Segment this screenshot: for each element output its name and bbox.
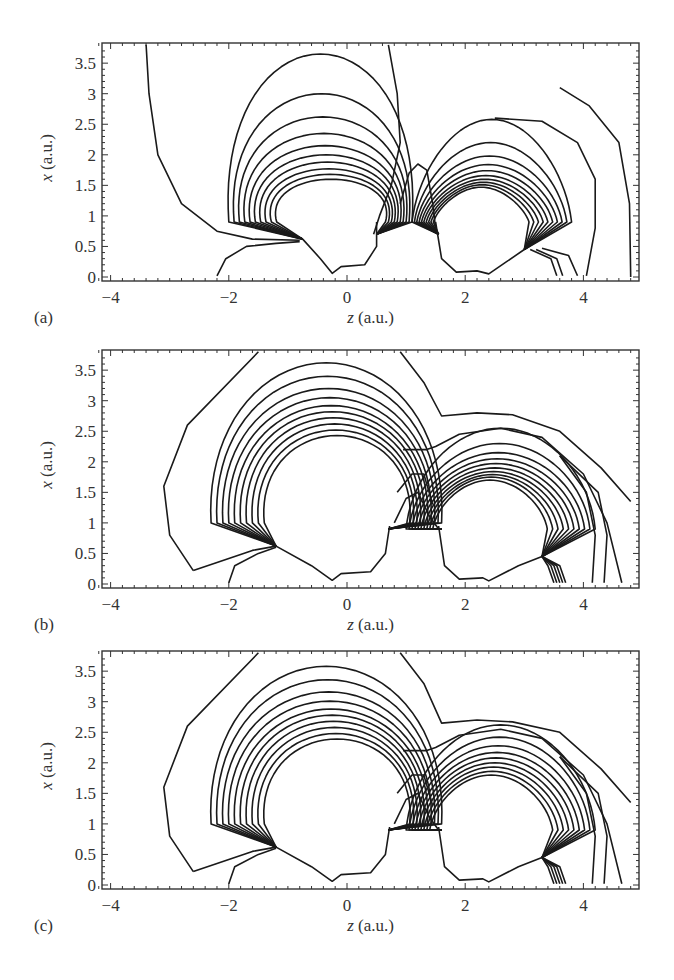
- x-tick-label: −4: [102, 896, 121, 915]
- y-tick-label: 1.5: [75, 483, 96, 502]
- x-tick-label: −2: [220, 288, 238, 307]
- y-tick-label: 1: [88, 207, 97, 226]
- contour-lines: [164, 653, 631, 884]
- panel-c: −4−202400.511.522.533.5z (a.u.)x (a.u.)(…: [0, 608, 674, 918]
- y-tick-label: 3.5: [75, 54, 96, 73]
- y-tick-label: 3: [88, 85, 97, 104]
- y-tick-label: 0: [88, 575, 97, 594]
- ticks: [99, 43, 639, 281]
- panel-b: −4−202400.511.522.533.5z (a.u.)x (a.u.)(…: [0, 307, 674, 617]
- y-tick-label: 3: [88, 392, 97, 411]
- x-tick-label: −2: [220, 896, 238, 915]
- y-tick-label: 1.5: [75, 176, 96, 195]
- x-tick-label: −4: [102, 288, 121, 307]
- y-tick-label: 1: [88, 815, 97, 834]
- plot-frame: [102, 43, 639, 281]
- x-tick-label: 4: [579, 288, 588, 307]
- panel-label: (c): [34, 916, 53, 935]
- y-tick-label: 2: [88, 754, 97, 773]
- y-axis-label: x (a.u.): [37, 742, 56, 791]
- y-tick-label: 2.5: [75, 115, 96, 134]
- y-tick-label: 1.5: [75, 784, 96, 803]
- y-axis-label: x (a.u.): [37, 441, 56, 490]
- contour-lines: [164, 352, 631, 583]
- y-tick-label: 0: [88, 268, 97, 287]
- y-tick-label: 0: [88, 876, 97, 895]
- x-tick-label: 2: [461, 896, 470, 915]
- y-axis-label: x (a.u.): [37, 134, 56, 183]
- contour-lines: [146, 45, 631, 277]
- y-tick-label: 2.5: [75, 723, 96, 742]
- plot-frame: [102, 651, 639, 889]
- x-axis-label: z (a.u.): [346, 916, 394, 935]
- x-tick-label: 4: [579, 896, 588, 915]
- y-tick-label: 2: [88, 146, 97, 165]
- x-tick-label: 0: [343, 896, 352, 915]
- panel-a: −4−202400.511.522.533.5z (a.u.)x (a.u.)(…: [0, 0, 674, 310]
- y-tick-label: 3: [88, 693, 97, 712]
- x-tick-label: 2: [461, 288, 470, 307]
- y-tick-label: 3.5: [75, 361, 96, 380]
- y-tick-label: 3.5: [75, 662, 96, 681]
- ticks: [99, 651, 639, 889]
- y-tick-label: 0.5: [75, 237, 96, 256]
- y-tick-label: 0.5: [75, 544, 96, 563]
- y-tick-label: 1: [88, 514, 97, 533]
- y-tick-label: 2.5: [75, 422, 96, 441]
- x-tick-label: 0: [343, 288, 352, 307]
- y-tick-label: 0.5: [75, 845, 96, 864]
- y-tick-label: 2: [88, 453, 97, 472]
